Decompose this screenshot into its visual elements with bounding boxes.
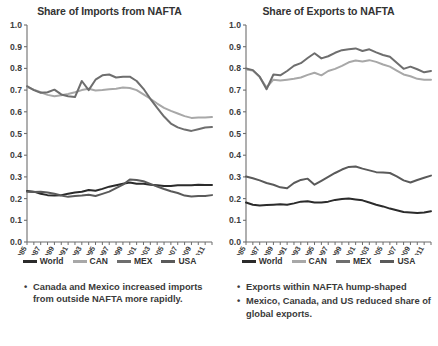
- chart-svg-imports: 0.00.10.20.30.40.50.60.70.80.91.01985198…: [0, 20, 219, 255]
- legend-label-mex: MEX: [353, 257, 371, 266]
- chart-title-exports: Share of Exports to NAFTA: [219, 5, 438, 17]
- x-axis-tick-label: 2001: [123, 245, 139, 255]
- x-axis-tick-label: 1997: [314, 245, 330, 255]
- x-axis-tick-label: 1995: [301, 245, 317, 255]
- x-axis-tick-label: 1991: [273, 245, 289, 255]
- legend-swatch-usa: [161, 260, 175, 263]
- x-axis-tick-label: 2003: [355, 245, 371, 255]
- y-axis-tick-label: 1.0: [10, 20, 22, 30]
- x-axis-tick-label: 2005: [369, 245, 385, 255]
- bullet-item: Canada and Mexico increased imports from…: [24, 281, 216, 306]
- y-axis-tick-label: 0.8: [229, 63, 241, 73]
- plot-area-imports: 0.00.10.20.30.40.50.60.70.80.91.01985198…: [0, 20, 219, 255]
- legend-swatch-mex: [117, 260, 131, 263]
- plot-area-exports: 0.00.10.20.30.40.50.60.70.80.91.01985198…: [219, 20, 438, 255]
- panel-exports: Share of Exports to NAFTA 0.00.10.20.30.…: [219, 0, 438, 346]
- legend-label-world: World: [259, 257, 283, 266]
- x-axis-tick-label: 1989: [260, 245, 276, 255]
- legend-swatch-can: [292, 260, 306, 263]
- legend-item-world[interactable]: World: [23, 257, 64, 266]
- legend-label-usa: USA: [397, 257, 415, 266]
- legend-swatch-world: [23, 260, 37, 263]
- legend-swatch-world: [242, 260, 256, 263]
- legend-item-usa[interactable]: USA: [161, 257, 196, 266]
- x-axis-tick-label: 1991: [54, 245, 70, 255]
- legend-item-mex[interactable]: MEX: [117, 257, 152, 266]
- y-axis-tick-label: 0.5: [10, 129, 22, 139]
- y-axis-tick-label: 0.1: [229, 215, 241, 225]
- x-axis-tick-label: 1987: [246, 245, 262, 255]
- y-axis-tick-label: 0.2: [10, 194, 22, 204]
- legend-label-can: CAN: [90, 257, 108, 266]
- legend-swatch-mex: [336, 260, 350, 263]
- x-axis-tick-label: 2001: [342, 245, 358, 255]
- y-axis-tick-label: 0.3: [229, 172, 241, 182]
- x-axis-tick-label: 2007: [383, 245, 399, 255]
- x-axis-tick-label: 1993: [68, 245, 84, 255]
- legend-item-can[interactable]: CAN: [73, 257, 108, 266]
- x-axis-tick-label: 2007: [164, 245, 180, 255]
- x-axis-tick-label: 1987: [27, 245, 43, 255]
- x-axis-tick-label: 2005: [150, 245, 166, 255]
- legend-item-usa[interactable]: USA: [380, 257, 415, 266]
- x-axis-tick-label: 1999: [328, 245, 344, 255]
- y-axis-tick-label: 0.8: [10, 63, 22, 73]
- y-axis-tick-label: 0.4: [229, 150, 241, 160]
- y-axis-tick-label: 0.1: [10, 215, 22, 225]
- legend-item-world[interactable]: World: [242, 257, 283, 266]
- y-axis-tick-label: 0.9: [10, 42, 22, 52]
- legend-swatch-can: [73, 260, 87, 263]
- y-axis-tick-label: 1.0: [229, 20, 241, 30]
- y-axis-tick-label: 0.4: [10, 150, 22, 160]
- legend-imports: WorldCANMEXUSA: [0, 257, 219, 266]
- legend-label-can: CAN: [309, 257, 327, 266]
- x-axis-tick-label: 2009: [397, 245, 413, 255]
- panel-imports: Share of Imports from NAFTA 0.00.10.20.3…: [0, 0, 219, 346]
- y-axis-tick-label: 0.2: [229, 194, 241, 204]
- series-line-mex: [246, 48, 431, 89]
- chart-title-imports: Share of Imports from NAFTA: [0, 5, 219, 17]
- y-axis-tick-label: 0.3: [10, 172, 22, 182]
- legend-label-world: World: [40, 257, 64, 266]
- series-line-mex: [27, 74, 212, 130]
- x-axis-tick-label: 2011: [410, 245, 425, 255]
- bullet-item: Exports within NAFTA hump-shaped: [237, 281, 435, 293]
- legend-item-mex[interactable]: MEX: [336, 257, 371, 266]
- slide-root: Share of Imports from NAFTA 0.00.10.20.3…: [0, 0, 438, 346]
- x-axis-tick-label: 1989: [41, 245, 57, 255]
- legend-item-can[interactable]: CAN: [292, 257, 327, 266]
- y-axis-tick-label: 0.7: [229, 85, 241, 95]
- y-axis-tick-label: 0.6: [10, 107, 22, 117]
- y-axis-tick-label: 0.6: [229, 107, 241, 117]
- legend-exports: WorldCANMEXUSA: [219, 257, 438, 266]
- y-axis-tick-label: 0.7: [10, 85, 22, 95]
- x-axis-tick-label: 2009: [178, 245, 194, 255]
- x-axis-tick-label: 1999: [109, 245, 125, 255]
- y-axis-tick-label: 0.9: [229, 42, 241, 52]
- x-axis-tick-label: 1995: [82, 245, 98, 255]
- x-axis-tick-label: 2011: [191, 245, 206, 255]
- series-line-world: [246, 199, 431, 213]
- bullet-list-exports: Exports within NAFTA hump-shapedMexico, …: [237, 281, 435, 322]
- legend-label-usa: USA: [178, 257, 196, 266]
- legend-swatch-usa: [380, 260, 394, 263]
- x-axis-tick-label: 1997: [95, 245, 111, 255]
- y-axis-tick-label: 0.5: [229, 129, 241, 139]
- bullet-list-imports: Canada and Mexico increased imports from…: [24, 281, 216, 308]
- chart-svg-exports: 0.00.10.20.30.40.50.60.70.80.91.01985198…: [219, 20, 438, 255]
- x-axis-tick-label: 2003: [136, 245, 152, 255]
- bullet-item: Mexico, Canada, and US reduced share of …: [237, 295, 435, 320]
- series-line-usa: [27, 180, 212, 197]
- x-axis-tick-label: 1993: [287, 245, 303, 255]
- legend-label-mex: MEX: [134, 257, 152, 266]
- series-line-usa: [246, 166, 431, 188]
- series-line-can: [27, 87, 212, 118]
